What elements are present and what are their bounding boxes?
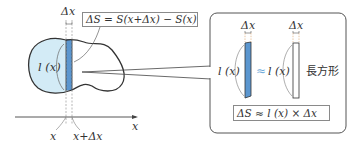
x-axis	[15, 115, 138, 119]
approx-formula-box: ΔS ≈ l (x) × Δx	[233, 105, 330, 121]
delta-x-bracket	[66, 22, 72, 24]
area-derivative-diagram: Δx ΔS = S(x+Δx) − S(x) l (x) x x x+Δx Δx…	[0, 0, 363, 146]
callout-rect-length: l (x)	[268, 66, 290, 77]
rectangle-label: 長方形	[306, 66, 339, 77]
callout-strip-length: l (x)	[218, 66, 240, 77]
callout-strip-delta-x: Δx	[241, 20, 255, 31]
approx-symbol: ≈	[256, 65, 266, 77]
length-label: l (x)	[38, 62, 61, 74]
tick-label-x: x	[50, 131, 56, 142]
tick-label-x-plus-dx: x+Δx	[73, 131, 103, 142]
callout-rect-delta-x: Δx	[289, 20, 303, 31]
area-strip	[66, 40, 72, 91]
delta-s-formula-box: ΔS = S(x+Δx) − S(x)	[82, 12, 198, 27]
delta-x-label: Δx	[61, 6, 75, 17]
x-axis-label: x	[132, 121, 138, 132]
